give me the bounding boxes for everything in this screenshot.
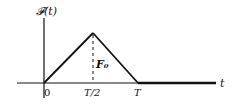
y-axis-label: 𝓕(t) bbox=[36, 5, 57, 18]
x-axis-label: t bbox=[220, 77, 225, 90]
tick-label-half-T: T/2 bbox=[84, 87, 100, 98]
diagram-canvas: 𝓕(t) t 0 T/2 T F₀ bbox=[0, 0, 235, 106]
tick-label-T: T bbox=[134, 87, 142, 98]
tick-label-0: 0 bbox=[44, 87, 50, 98]
rising-edge bbox=[44, 33, 93, 83]
peak-value-label: F₀ bbox=[95, 58, 109, 71]
triangular-pulse-diagram: 𝓕(t) t 0 T/2 T F₀ bbox=[0, 0, 235, 106]
